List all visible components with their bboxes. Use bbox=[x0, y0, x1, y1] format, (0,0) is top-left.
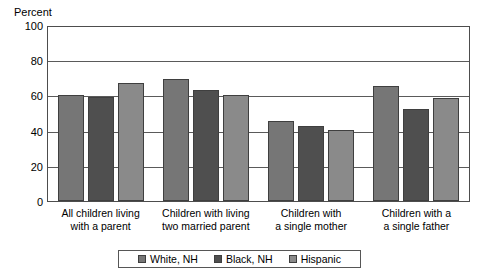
x-category-label-line: All children living bbox=[48, 207, 153, 220]
x-category-label-line: Children with bbox=[259, 207, 364, 220]
legend-label: Hispanic bbox=[301, 254, 341, 265]
bar-group bbox=[364, 27, 469, 201]
bar bbox=[163, 79, 189, 201]
bar bbox=[88, 97, 114, 201]
legend-swatch-icon bbox=[138, 255, 146, 263]
legend-item[interactable]: Black, NH bbox=[214, 254, 273, 265]
bar bbox=[373, 86, 399, 201]
bar bbox=[268, 121, 294, 201]
bar-group bbox=[259, 27, 364, 201]
bar-group bbox=[48, 27, 153, 201]
x-category-label: All children livingwith a parent bbox=[48, 207, 153, 237]
legend-label: Black, NH bbox=[226, 254, 273, 265]
bar bbox=[328, 130, 354, 201]
bar bbox=[58, 95, 84, 201]
legend-item[interactable]: Hispanic bbox=[289, 254, 341, 265]
x-category-label-line: a single mother bbox=[259, 220, 364, 233]
x-category-label-line: two married parent bbox=[153, 220, 258, 233]
bar bbox=[298, 126, 324, 201]
x-category-label-line: Children with a bbox=[364, 207, 469, 220]
y-tick-label: 60 bbox=[17, 91, 43, 102]
bar bbox=[403, 109, 429, 201]
bar bbox=[223, 95, 249, 201]
bar-group bbox=[153, 27, 258, 201]
chart-legend: White, NHBlack, NHHispanic bbox=[118, 250, 361, 268]
legend-swatch-icon bbox=[289, 255, 297, 263]
y-axis-title: Percent bbox=[14, 6, 52, 18]
bar-chart-figure: Percent 100806040200 All children living… bbox=[0, 0, 485, 276]
y-tick-label: 40 bbox=[17, 127, 43, 138]
legend-swatch-icon bbox=[214, 255, 222, 263]
y-tick-label: 20 bbox=[17, 162, 43, 173]
legend-label: White, NH bbox=[150, 254, 198, 265]
x-category-label-line: Children with living bbox=[153, 207, 258, 220]
x-category-label: Children witha single mother bbox=[259, 207, 364, 237]
bar bbox=[433, 98, 459, 201]
y-axis-tick-labels: 100806040200 bbox=[14, 26, 43, 202]
bar bbox=[193, 90, 219, 201]
bar-groups bbox=[48, 27, 469, 201]
bar bbox=[118, 83, 144, 201]
x-axis-category-labels: All children livingwith a parentChildren… bbox=[48, 207, 469, 237]
legend-item[interactable]: White, NH bbox=[138, 254, 198, 265]
x-category-label: Children with livingtwo married parent bbox=[153, 207, 258, 237]
x-category-label: Children with aa single father bbox=[364, 207, 469, 237]
x-category-label-line: a single father bbox=[364, 220, 469, 233]
x-category-label-line: with a parent bbox=[48, 220, 153, 233]
y-tick-label: 80 bbox=[17, 56, 43, 67]
y-tick-label: 0 bbox=[17, 197, 43, 208]
y-tick-label: 100 bbox=[17, 21, 43, 32]
